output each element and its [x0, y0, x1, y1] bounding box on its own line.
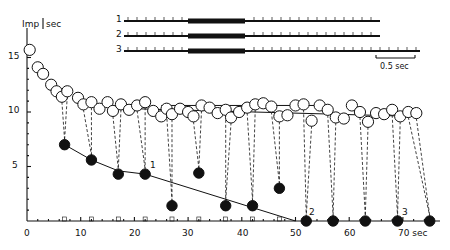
- open-circle-point: [298, 99, 309, 110]
- y-axis-label: Imp: [22, 19, 39, 29]
- trace-label-3: 3: [116, 44, 122, 54]
- stimulus-marker: [277, 217, 281, 221]
- dashed-connector: [83, 109, 91, 155]
- dashed-connector: [328, 115, 333, 216]
- open-circle-point: [140, 97, 151, 108]
- open-circle-point: [338, 113, 349, 124]
- dashed-connector: [247, 113, 252, 201]
- filled-circle-point: [59, 140, 69, 150]
- filled-circle-point: [425, 216, 435, 226]
- y-axis-unit: sec: [46, 19, 61, 29]
- annotation-3: 3: [402, 207, 408, 217]
- filled-circle-point: [220, 201, 230, 211]
- open-circle-point: [411, 107, 422, 118]
- filled-circle-point: [328, 216, 338, 226]
- figure-canvas: 1 2 3 0.5 sec Imp sec 5 10 15 0 10 20 30…: [0, 0, 450, 250]
- open-circle-point: [62, 86, 73, 97]
- open-circle-point: [24, 44, 35, 55]
- annotation-1: 1: [150, 160, 156, 170]
- stimulus-marker: [116, 217, 120, 221]
- filled-circle-point: [167, 201, 177, 211]
- open-circle-point: [188, 111, 199, 122]
- y-tick-label-10: 10: [8, 105, 20, 115]
- inset-traces: 1 2 3 0.5 sec: [116, 14, 420, 71]
- dashed-connector: [193, 121, 198, 168]
- dashed-connector: [118, 109, 121, 169]
- dashed-connector: [167, 114, 172, 201]
- filled-circle-point: [301, 216, 311, 226]
- filled-circle-point: [392, 216, 402, 226]
- x-tick-label-60: 60: [344, 228, 356, 238]
- y-tick-label-15: 15: [8, 51, 19, 61]
- dashed-connector: [392, 115, 397, 216]
- x-tick-label-30: 30: [182, 228, 194, 238]
- x-tick-label-50: 50: [290, 228, 302, 238]
- dashed-connector: [408, 117, 429, 216]
- x-tick-label-10: 10: [75, 228, 87, 238]
- x-tick-label-0: 0: [24, 228, 30, 238]
- open-circle-point: [354, 106, 365, 117]
- dashed-connector: [113, 116, 118, 169]
- open-circle-point: [282, 110, 293, 121]
- filled-circle-point: [140, 169, 150, 179]
- dashed-connector: [360, 117, 365, 216]
- annotation-2: 2: [309, 207, 315, 217]
- open-circle-point: [266, 101, 277, 112]
- open-circle-point: [306, 115, 317, 126]
- dashed-connector: [398, 121, 401, 216]
- dashed-connector: [306, 126, 311, 216]
- dashed-connector: [253, 109, 256, 200]
- dashed-connector: [365, 127, 368, 216]
- dashed-connector: [199, 110, 202, 168]
- filled-circle-point: [86, 155, 96, 165]
- dashed-connector: [62, 102, 65, 140]
- filled-circle-point: [113, 169, 123, 179]
- trace-label-2: 2: [116, 29, 122, 39]
- dashed-connector: [333, 122, 336, 216]
- filled-circle-point: [247, 201, 257, 211]
- dashed-connector: [65, 96, 68, 139]
- stimulus-marker: [63, 217, 67, 221]
- trend-line: [65, 145, 296, 221]
- trace-label-1: 1: [116, 14, 122, 24]
- plot-area: [24, 44, 435, 226]
- stimulus-marker: [170, 217, 174, 221]
- filled-circle-point: [274, 183, 284, 193]
- y-tick-label-5: 5: [12, 160, 18, 170]
- dashed-connector: [416, 118, 429, 216]
- scale-bar-label: 0.5 sec: [380, 62, 409, 71]
- y-ticks: [27, 47, 31, 211]
- x-tick-label-70: 70 sec: [398, 228, 428, 238]
- x-tick-label-40: 40: [237, 228, 249, 238]
- dashed-connector: [137, 110, 145, 169]
- filled-circle-point: [360, 216, 370, 226]
- x-tick-label-20: 20: [129, 228, 141, 238]
- stimulus-marker: [224, 217, 228, 221]
- open-circle-point: [362, 116, 373, 127]
- open-circle-point: [38, 68, 49, 79]
- dashed-connector: [226, 122, 231, 200]
- filled-circle-point: [194, 168, 204, 178]
- spike-marks: [128, 17, 416, 52]
- dashed-connector: [304, 109, 307, 216]
